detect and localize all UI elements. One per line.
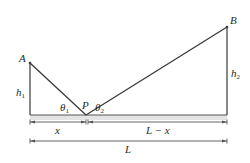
- diagram-canvas: A B P h1 h2 θ1 θ2 x L − x L: [0, 0, 250, 163]
- ground-surface: [30, 115, 227, 120]
- reflection-diagram: A B P h1 h2 θ1 θ2 x L − x L: [0, 0, 250, 163]
- label-L-minus-x: L − x: [145, 124, 170, 136]
- segment-AP: [30, 63, 86, 115]
- segment-PB: [86, 27, 227, 115]
- label-B: B: [230, 14, 237, 26]
- label-P: P: [81, 99, 89, 111]
- point-B-dot: [226, 26, 229, 29]
- label-L: L: [124, 143, 131, 155]
- label-h2: h2: [231, 67, 241, 81]
- label-theta1: θ1: [60, 101, 69, 115]
- label-x: x: [54, 124, 60, 136]
- point-A-dot: [29, 62, 32, 65]
- label-theta2: θ2: [95, 101, 104, 115]
- label-A: A: [18, 52, 26, 64]
- label-h1: h1: [16, 86, 26, 100]
